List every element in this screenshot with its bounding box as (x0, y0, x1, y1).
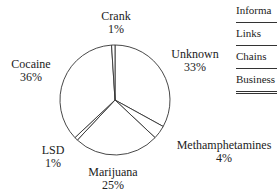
label-cocaine-pct: 36% (6, 71, 56, 84)
label-unknown-pct: 33% (165, 61, 225, 74)
label-marijuana-pct: 25% (85, 179, 141, 190)
label-cocaine: Cocaine 36% (6, 58, 56, 84)
menu-item-business[interactable]: Business (236, 69, 277, 94)
label-meth-pct: 4% (170, 152, 277, 165)
label-unknown: Unknown 33% (165, 48, 225, 74)
label-marijuana: Marijuana 25% (85, 166, 141, 190)
menu-item-links[interactable]: Links (236, 23, 277, 46)
side-menu: Informa Links Chains Business (236, 0, 277, 94)
label-lsd: LSD 1% (36, 144, 70, 170)
label-meth: Methamphetamines 4% (170, 139, 277, 165)
label-crank-pct: 1% (100, 23, 132, 36)
label-crank: Crank 1% (100, 10, 132, 36)
menu-item-chains[interactable]: Chains (236, 46, 277, 69)
menu-item-information[interactable]: Informa (236, 0, 277, 23)
label-lsd-pct: 1% (36, 157, 70, 170)
